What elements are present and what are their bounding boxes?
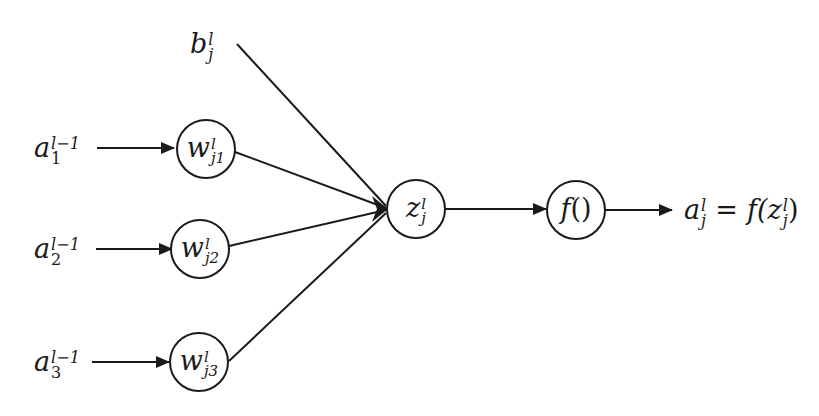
output-lhs-sub: j [701, 213, 706, 228]
input-3-base: a [34, 346, 50, 377]
weight-3-sub: j3 [204, 364, 218, 378]
output-rhs-base: z [768, 194, 782, 225]
weight-1-base: w [187, 132, 210, 163]
output-rhs-sub: j [783, 213, 788, 228]
input-3-sub: 3 [51, 365, 80, 380]
weight-label-2: wlj2 [171, 234, 229, 267]
input-2-sub: 2 [51, 252, 80, 267]
weight-2-sub: j2 [205, 251, 219, 265]
weight-3-line [229, 213, 386, 361]
input-1-base: a [34, 132, 50, 163]
output-equation: alj = f(zlj) [684, 196, 798, 230]
input-label-2: al−12 [34, 235, 80, 269]
activation-base: f [560, 193, 570, 224]
bias-base: b [190, 28, 207, 59]
bias-sub: j [208, 47, 213, 62]
sum-base: z [406, 192, 420, 223]
input-label-1: al−11 [34, 134, 80, 168]
output-lhs-base: a [684, 194, 700, 225]
activation-parens: () [570, 193, 591, 224]
bias-label: blj [190, 30, 213, 64]
input-2-base: a [34, 233, 50, 264]
weight-1-sub: j1 [211, 151, 225, 165]
activation-node-label: f() [547, 195, 605, 222]
weight-label-3: wlj3 [170, 347, 228, 380]
bias-line [237, 44, 386, 206]
weight-3-base: w [180, 345, 203, 376]
output-rhs-func: f( [747, 194, 768, 225]
input-1-sub: 1 [51, 151, 80, 166]
output-rhs-close: ) [788, 194, 799, 225]
weight-2-line [229, 210, 386, 246]
weight-2-base: w [181, 232, 204, 263]
sum-node-label: zlj [387, 194, 445, 227]
sum-sub: j [421, 211, 426, 225]
weight-label-1: wlj1 [177, 134, 235, 167]
input-label-3: al−13 [34, 348, 80, 382]
output-equals: = [715, 194, 738, 225]
